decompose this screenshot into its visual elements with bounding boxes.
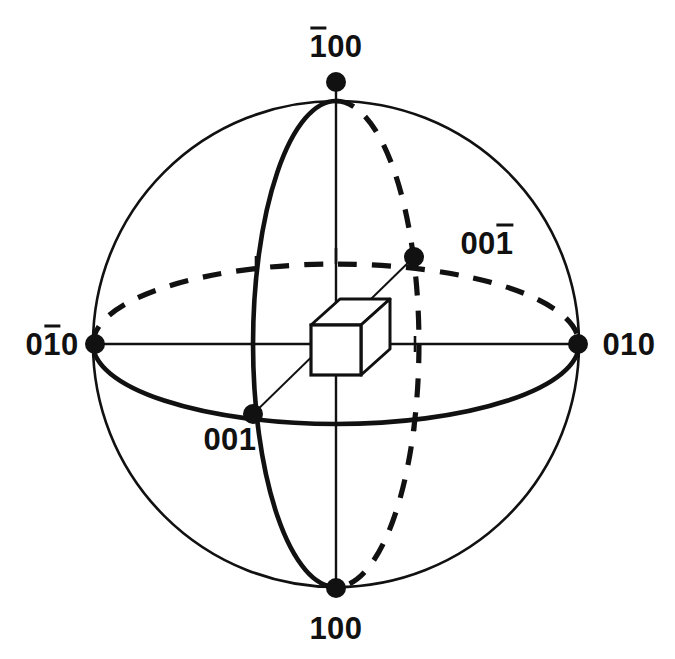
label-010-right: 010: [602, 329, 655, 360]
label-001-lower-left-text: 001: [203, 422, 256, 457]
pole-100-marker[interactable]: [326, 578, 346, 598]
label-010-bar-left-d1: 0: [25, 327, 43, 362]
pole-010-bar-marker[interactable]: [85, 334, 105, 354]
label-100-bar-top-digit1: 1: [309, 31, 327, 62]
label-010-bar-left: 010: [25, 329, 78, 360]
label-100-bar-top: 100: [309, 31, 362, 62]
label-001-bar-d3: 1: [496, 228, 514, 259]
pole-100-bar-marker[interactable]: [326, 72, 346, 92]
label-100-bottom-text: 100: [309, 611, 362, 646]
label-100-bottom: 100: [309, 613, 362, 644]
unit-cell-front-face: [311, 325, 361, 375]
crystallographic-sphere-figure: 100 100 010 010 001 001: [0, 0, 675, 659]
label-100-bar-top-rest: 00: [327, 29, 362, 64]
label-010-bar-left-d3: 0: [61, 327, 79, 362]
cubic-unit-cell: [311, 299, 390, 375]
sphere-diagram-svg: [0, 0, 675, 659]
pole-001-bar-marker[interactable]: [404, 247, 424, 267]
label-010-bar-left-d2: 1: [43, 329, 61, 360]
label-001-lower-left: 001: [203, 424, 256, 455]
pole-010-marker[interactable]: [568, 334, 588, 354]
label-001-bar-upper-right: 001: [460, 228, 513, 259]
label-001-bar-pre: 00: [460, 226, 495, 261]
label-010-right-text: 010: [602, 327, 655, 362]
